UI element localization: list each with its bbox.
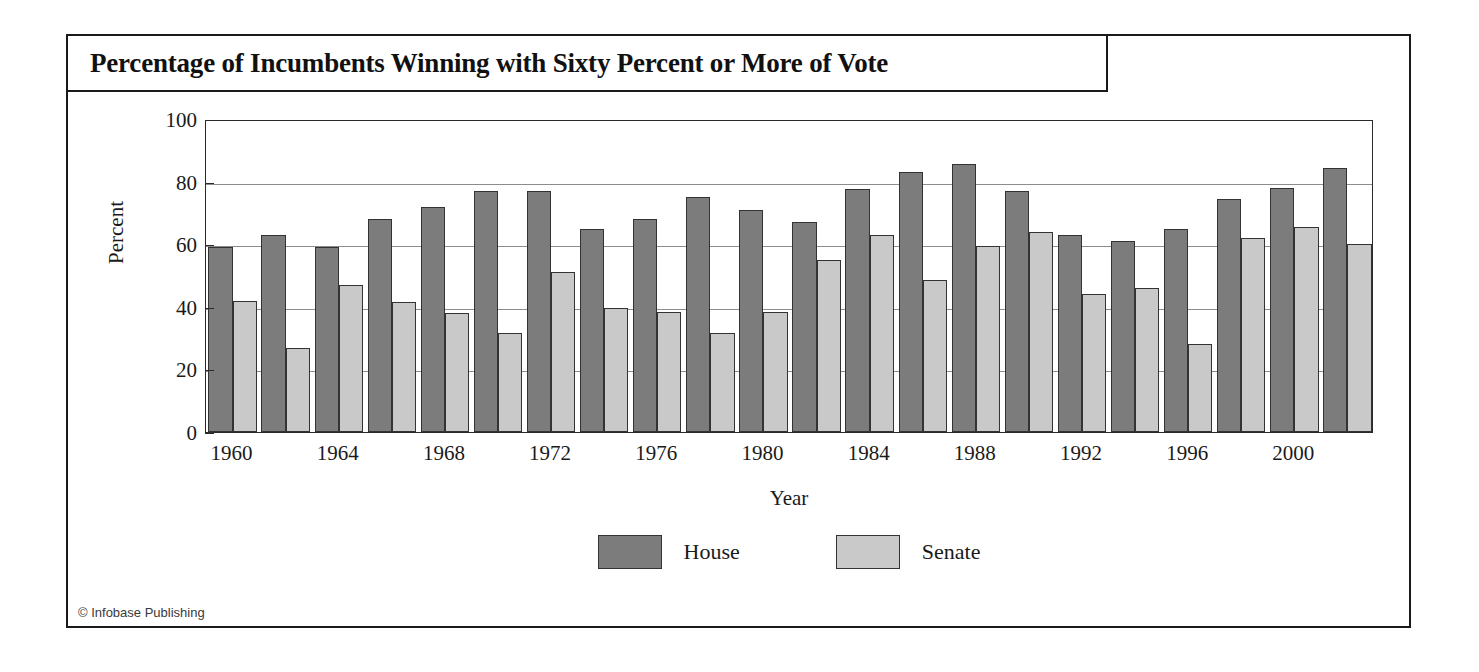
x-tick-label-1972: 1972 <box>529 441 571 466</box>
bar-house-1974 <box>580 229 604 432</box>
chart-legend: HouseSenate <box>205 532 1373 572</box>
x-tick-label-1964: 1964 <box>317 441 359 466</box>
y-tick-mark <box>205 308 214 309</box>
bar-senate-1990 <box>1029 232 1053 432</box>
bar-senate-1998 <box>1241 238 1265 432</box>
bar-senate-1974 <box>604 308 628 432</box>
x-tick-label-1988: 1988 <box>954 441 996 466</box>
bar-house-1978 <box>686 197 710 432</box>
bar-house-1982 <box>792 222 816 432</box>
bar-house-2000 <box>1270 188 1294 432</box>
bar-house-1992 <box>1058 235 1082 432</box>
plot-area <box>205 120 1373 433</box>
bar-senate-2002 <box>1347 244 1371 432</box>
bar-house-1964 <box>315 247 339 432</box>
y-tick-label: 20 <box>151 358 197 383</box>
bar-senate-1978 <box>710 333 734 432</box>
bar-senate-1988 <box>976 246 1000 432</box>
bar-senate-1962 <box>286 348 310 433</box>
x-axis-ticks: 1960196419681972197619801984198819921996… <box>205 441 1373 475</box>
y-tick-mark <box>205 245 214 246</box>
bar-group <box>206 121 1372 432</box>
y-tick-label: 80 <box>151 170 197 195</box>
y-tick-label: 60 <box>151 233 197 258</box>
y-tick-mark <box>205 433 214 434</box>
bar-senate-1960 <box>233 301 257 432</box>
bar-house-1998 <box>1217 199 1241 432</box>
legend-item-house: House <box>598 535 740 569</box>
bar-house-1970 <box>474 191 498 432</box>
legend-label-house: House <box>684 539 740 565</box>
page-title: Percentage of Incumbents Winning with Si… <box>68 48 888 79</box>
bar-house-1966 <box>368 219 392 432</box>
legend-label-senate: Senate <box>922 539 981 565</box>
y-tick-label: 0 <box>151 421 197 446</box>
bar-house-1996 <box>1164 229 1188 432</box>
plot-wrapper: Percent 020406080100 1960196419681972197… <box>68 92 1409 626</box>
bar-house-1962 <box>261 235 285 432</box>
x-tick-label-1984: 1984 <box>848 441 890 466</box>
bar-senate-1964 <box>339 285 363 432</box>
bar-house-1984 <box>845 189 869 432</box>
y-tick-mark <box>205 120 214 121</box>
bar-house-1990 <box>1005 191 1029 432</box>
y-axis-label: Percent <box>104 173 129 293</box>
x-tick-label-1968: 1968 <box>423 441 465 466</box>
bar-house-1960 <box>208 247 232 432</box>
x-tick-label-1980: 1980 <box>741 441 783 466</box>
bar-house-1976 <box>633 219 657 432</box>
y-tick-mark <box>205 183 214 184</box>
y-tick-label: 100 <box>151 108 197 133</box>
bar-senate-1982 <box>817 260 841 432</box>
bar-house-1986 <box>899 172 923 432</box>
x-tick-label-1960: 1960 <box>211 441 253 466</box>
bar-senate-1972 <box>551 272 575 432</box>
x-axis-label: Year <box>205 486 1373 511</box>
title-box: Percentage of Incumbents Winning with Si… <box>68 36 1108 92</box>
chart-figure: Percentage of Incumbents Winning with Si… <box>66 34 1411 628</box>
bar-senate-1970 <box>498 333 522 432</box>
bar-senate-1968 <box>445 313 469 432</box>
legend-item-senate: Senate <box>836 535 981 569</box>
bar-senate-1996 <box>1188 344 1212 432</box>
y-tick-mark <box>205 370 214 371</box>
bar-senate-1980 <box>763 312 787 433</box>
copyright-credit: © Infobase Publishing <box>78 605 205 620</box>
x-tick-label-1996: 1996 <box>1166 441 1208 466</box>
bar-senate-2000 <box>1294 227 1318 432</box>
bar-house-1980 <box>739 210 763 432</box>
bar-house-2002 <box>1323 168 1347 432</box>
bar-senate-1992 <box>1082 294 1106 432</box>
legend-swatch-house <box>598 535 662 569</box>
x-tick-label-1976: 1976 <box>635 441 677 466</box>
bar-senate-1984 <box>870 235 894 432</box>
y-axis-ticks: 020406080100 <box>145 120 197 433</box>
x-tick-label-2000: 2000 <box>1272 441 1314 466</box>
bar-senate-1994 <box>1135 288 1159 432</box>
bar-senate-1986 <box>923 280 947 432</box>
x-tick-label-1992: 1992 <box>1060 441 1102 466</box>
y-tick-label: 40 <box>151 295 197 320</box>
bar-senate-1976 <box>657 312 681 433</box>
bar-house-1988 <box>952 164 976 432</box>
bar-house-1994 <box>1111 241 1135 432</box>
bar-senate-1966 <box>392 302 416 432</box>
legend-swatch-senate <box>836 535 900 569</box>
bar-house-1968 <box>421 207 445 432</box>
bar-house-1972 <box>527 191 551 432</box>
